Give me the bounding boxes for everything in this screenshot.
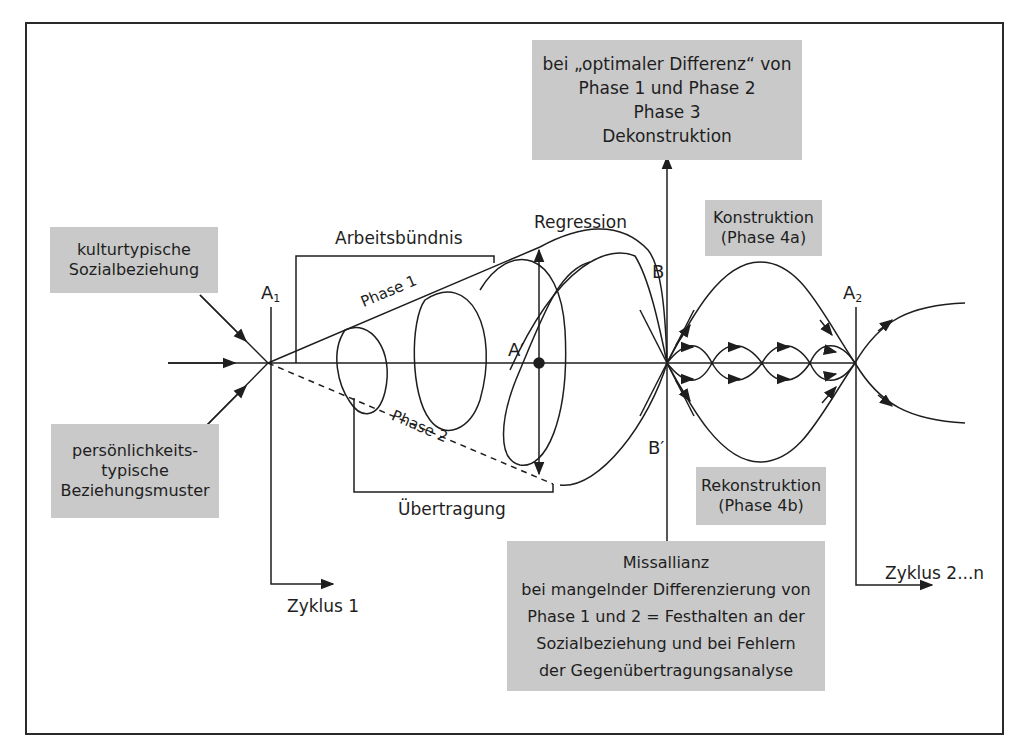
konstruktion-box: Konstruktion (Phase 4a) <box>705 200 822 256</box>
zyklus1-label: Zyklus 1 <box>287 597 359 616</box>
box-line: kulturtypische <box>50 240 218 260</box>
konstruktion-arc <box>667 262 855 363</box>
loop-1 <box>337 327 387 413</box>
a-prime-label: A′ <box>508 340 524 359</box>
b-prime-label: B′ <box>648 438 664 457</box>
persoenlichkeitstypische-beziehungsmuster-box: persönlichkeits- typische Beziehungsmust… <box>51 424 219 518</box>
rekonstruktion-box: Rekonstruktion (Phase 4b) <box>696 467 826 525</box>
uebertragung-label: Übertragung <box>398 500 506 519</box>
arbeitsbuendnis-label: Arbeitsbündnis <box>335 229 463 248</box>
outgoing-curve-up <box>855 303 965 363</box>
rekonstruktion-arc <box>667 363 855 462</box>
box-line: bei mangelnder Differenzierung von <box>507 576 825 603</box>
box-line: persönlichkeits- <box>51 441 219 461</box>
box-line: Phase 1 und 2 = Festhalten an der <box>507 603 825 630</box>
box-line: Sozialbeziehung und bei Fehlern <box>507 630 825 657</box>
box-line: Rekonstruktion <box>696 476 826 496</box>
zyklus2n-label: Zyklus 2...n <box>885 564 984 583</box>
box-line: der Gegenübertragungsanalyse <box>507 657 825 684</box>
a1-label: A1 <box>261 283 280 308</box>
box-line: bei „optimaler Differenz“ von <box>532 52 802 76</box>
regression-label: Regression <box>534 213 627 232</box>
regression-inner-curve <box>510 253 667 370</box>
lens-loops <box>667 346 855 363</box>
box-line: typische <box>51 461 219 481</box>
box-line: Dekonstruktion <box>532 124 802 148</box>
outgoing-curve-down <box>855 363 965 423</box>
box-line: (Phase 4a) <box>705 228 822 248</box>
b-label: B <box>652 262 664 281</box>
a-prime-dot <box>534 358 544 368</box>
missallianz-box: Missallianz bei mangelnder Differenzieru… <box>507 541 825 691</box>
box-line: (Phase 4b) <box>696 496 826 516</box>
dekonstruktion-box: bei „optimaler Differenz“ von Phase 1 un… <box>532 40 802 160</box>
box-line: Konstruktion <box>705 208 822 228</box>
box-line: Beziehungsmuster <box>51 481 219 501</box>
box-line: Missallianz <box>507 549 825 576</box>
box-line: Phase 3 <box>532 100 802 124</box>
box-line: Sozialbeziehung <box>50 260 218 280</box>
box-line: Phase 1 und Phase 2 <box>532 76 802 100</box>
zyklus2-axis <box>856 307 932 585</box>
loop-2 <box>414 292 486 430</box>
phase1-line <box>268 247 540 363</box>
a2-label: A2 <box>843 283 862 308</box>
kulturtypische-sozialbeziehung-box: kulturtypische Sozialbeziehung <box>50 227 218 293</box>
